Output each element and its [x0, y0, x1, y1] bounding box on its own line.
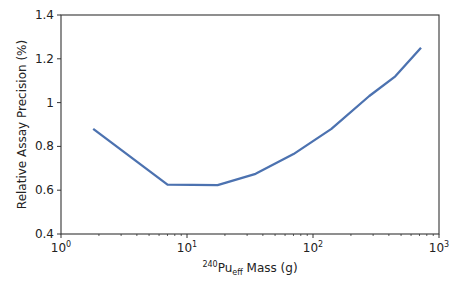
plot-frame	[61, 15, 439, 234]
y-tick-label: 0.6	[35, 183, 54, 197]
x-axis-label: 240Pueff Mass (g)	[202, 260, 297, 277]
y-tick-label: 1.2	[35, 52, 54, 66]
x-tick-label: 103	[429, 240, 449, 255]
x-tick-label: 101	[177, 240, 197, 255]
y-tick-label: 1	[46, 96, 54, 110]
line-chart: 0.40.60.811.21.4100101102103240Pueff Mas…	[0, 0, 457, 287]
x-tick-label: 100	[51, 240, 71, 255]
y-tick-label: 0.4	[35, 227, 54, 241]
y-axis-label: Relative Assay Precision (%)	[15, 40, 29, 209]
x-tick-label: 102	[303, 240, 323, 255]
y-tick-label: 1.4	[35, 8, 54, 22]
series-line	[93, 48, 421, 185]
y-tick-label: 0.8	[35, 139, 54, 153]
